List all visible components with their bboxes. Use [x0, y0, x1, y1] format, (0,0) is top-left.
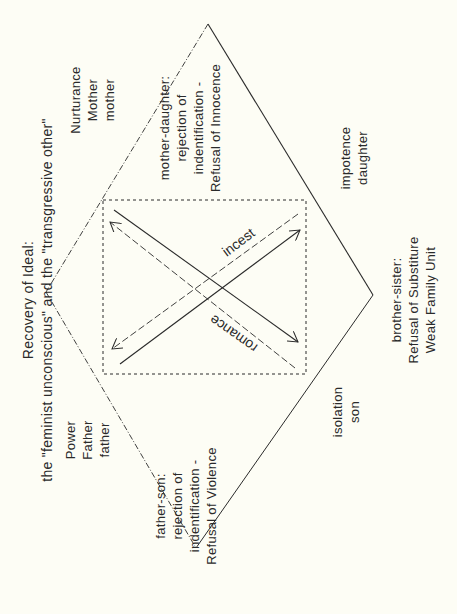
node-daughter: impotence daughter: [337, 127, 371, 190]
daughter-line-2: daughter: [354, 127, 371, 190]
relation-mother-daughter: mother-daughter: rejection of indentific…: [156, 64, 224, 192]
incest-solid-line: [120, 230, 300, 364]
father-line-2: Father: [79, 420, 96, 459]
daughter-line-1: impotence: [337, 127, 354, 190]
son-line-1: isolation: [329, 387, 346, 437]
mother-line-2: Mother: [84, 66, 101, 133]
fs-line-1: father-son:: [152, 447, 169, 564]
node-father: Power Father father: [62, 420, 113, 459]
bs-line-1: brother-sister:: [388, 237, 405, 364]
father-line-1: Power: [62, 420, 79, 459]
fs-line-2: rejection of: [169, 447, 186, 564]
title-line-1: Recovery of Ideal:: [19, 118, 38, 482]
romance-solid-line: [114, 210, 298, 342]
fs-line-3: indentification -: [186, 447, 203, 564]
son-line-2: son: [346, 387, 363, 437]
father-line-3: father: [96, 420, 113, 459]
relation-brother-sister: brother-sister: Refusal of Substiture We…: [388, 237, 439, 364]
md-line-3: indentification -: [190, 64, 207, 192]
bs-line-3: Weak Family Unit: [422, 237, 439, 364]
mother-line-1: Nurturance: [67, 66, 84, 133]
title-line-2: the "feminist unconscious" and the "tran…: [38, 118, 57, 482]
inner-box: [103, 200, 306, 374]
node-mother: Nurturance Mother mother: [67, 66, 118, 133]
md-line-4: Refusal of Innocence: [207, 64, 224, 192]
md-line-2: rejection of: [173, 64, 190, 192]
fs-line-4: Refusal of Violence: [203, 447, 220, 564]
title-label: Recovery of Ideal: the "feminist unconsc…: [19, 118, 57, 482]
bs-line-2: Refusal of Substiture: [405, 237, 422, 364]
romance-dashed-line: [110, 222, 295, 368]
md-line-1: mother-daughter:: [156, 64, 173, 192]
relation-father-son: father-son: rejection of indentification…: [152, 447, 220, 564]
mother-line-3: mother: [101, 66, 118, 133]
incest-dashed-line: [112, 214, 298, 349]
node-son: isolation son: [329, 387, 363, 437]
